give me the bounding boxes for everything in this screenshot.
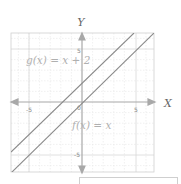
tick-y-pos5: 5 (77, 47, 81, 54)
answer-input-box[interactable] (79, 177, 178, 184)
g-function-label: g(x) = x + 2 (26, 54, 91, 66)
function-graph: Y X g(x) = x + 2 f(x) = x -5 5 0 5 -5 (0, 0, 181, 184)
f-function-label: f(x) = x (71, 119, 111, 131)
tick-x-pos5: 5 (134, 106, 138, 113)
x-axis-label: X (163, 97, 173, 110)
tick-x-neg5: -5 (26, 106, 32, 113)
tick-origin: 0 (77, 104, 81, 111)
tick-y-neg5: -5 (74, 151, 80, 158)
y-axis-label: Y (77, 16, 86, 29)
y-axis-up-arrow-icon (79, 33, 85, 40)
x-axis-left-arrow-icon (11, 99, 18, 105)
g-line (11, 33, 134, 152)
